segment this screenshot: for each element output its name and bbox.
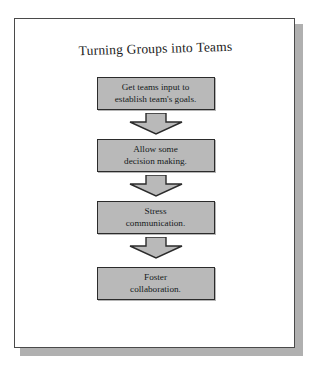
figure-root: Turning Groups into Teams Get teams inpu… xyxy=(0,0,309,378)
flow-node-step-2: Allow some decision making. xyxy=(97,139,215,172)
flow-node-step-3: Stress communication. xyxy=(97,201,215,234)
flow-arrow-down-3 xyxy=(128,237,184,259)
flow-node-step-1: Get teams input to establish team's goal… xyxy=(97,77,215,110)
flow-node-label: Stress communication. xyxy=(126,206,185,229)
flow-node-step-4: Foster collaboration. xyxy=(97,267,215,300)
flow-arrow-down-2 xyxy=(128,175,184,197)
figure-frame: Turning Groups into Teams Get teams inpu… xyxy=(14,18,295,348)
flow-node-label: Foster collaboration. xyxy=(130,272,181,295)
flow-node-label: Get teams input to establish team's goal… xyxy=(115,82,197,105)
flowchart: Get teams input to establish team's goal… xyxy=(15,77,296,300)
flow-arrow-down-1 xyxy=(128,113,184,135)
flow-node-label: Allow some decision making. xyxy=(124,144,187,167)
figure-title: Turning Groups into Teams xyxy=(15,37,296,61)
